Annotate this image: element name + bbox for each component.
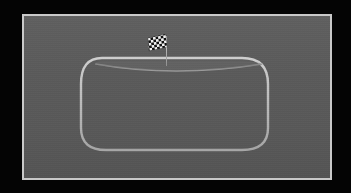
game-screen <box>0 0 351 193</box>
checkered-finish-flag <box>142 34 176 66</box>
game-viewport[interactable] <box>22 14 332 180</box>
track-outer-edge <box>81 58 268 150</box>
oval-race-track <box>24 16 330 178</box>
checkered-flag-icon <box>146 34 168 54</box>
track-surface-shading <box>96 61 263 71</box>
